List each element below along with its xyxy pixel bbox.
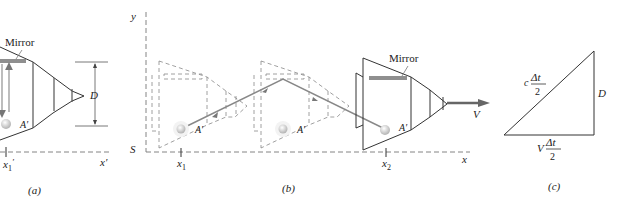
light-source-ghost-2	[275, 121, 291, 137]
velocity-label: V	[473, 108, 481, 120]
panel-c	[504, 51, 594, 135]
y-axis-label: y	[130, 10, 136, 22]
point-label-b3: A′	[398, 122, 408, 133]
panel-b	[146, 12, 490, 157]
axis-label-x-prime: x′	[99, 156, 108, 168]
ship-current	[356, 58, 447, 150]
hyp-num: Δt	[530, 71, 541, 83]
mirror-label-a: Mirror	[5, 36, 35, 48]
hyp-coef: c	[524, 77, 529, 88]
point-label-b1: A′	[194, 124, 204, 135]
panel-a	[0, 47, 112, 157]
caption-a: (a)	[28, 184, 41, 197]
point-label-a: A′	[19, 119, 29, 130]
base-den: 2	[550, 151, 555, 162]
caption-b: (b)	[282, 182, 295, 195]
side-label-d: D	[597, 87, 606, 99]
dimension-label-d: D	[89, 89, 98, 101]
caption-c: (c)	[548, 180, 561, 193]
mirror-label-b: Mirror	[389, 52, 419, 64]
point-label-b2: A′	[296, 124, 306, 135]
x-axis-label: x	[461, 153, 467, 165]
mirror	[0, 59, 26, 63]
base-num: Δt	[545, 136, 556, 148]
tick-label-x1: x1	[176, 157, 186, 172]
base-coef: V	[537, 142, 545, 154]
hyp-den: 2	[535, 86, 540, 97]
light-source-ghost-1	[173, 121, 189, 137]
right-triangle	[504, 51, 594, 135]
tick-label-x1-prime: x1′	[2, 157, 15, 173]
tick-label-x2: x2	[381, 157, 391, 172]
origin-label: S	[130, 143, 136, 155]
light-source-current	[380, 125, 390, 135]
mirror-b	[369, 76, 407, 80]
light-source	[1, 119, 11, 129]
light-clock-diagram: Mirror A′ D x1′ x′ (a)	[0, 0, 623, 206]
